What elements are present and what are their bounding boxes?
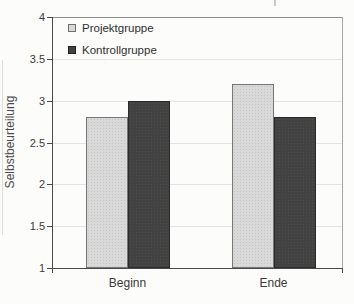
legend-label-projektgruppe: Projektgruppe bbox=[82, 22, 154, 35]
plot-frame-right bbox=[342, 17, 343, 269]
bar-kontrollgruppe-ende bbox=[274, 117, 316, 268]
y-tick-label: 3.5 bbox=[12, 53, 45, 66]
y-tick-label: 3 bbox=[12, 95, 45, 108]
legend-item-kontrollgruppe: Kontrollgruppe bbox=[68, 39, 157, 61]
y-tick-label: 1 bbox=[12, 262, 45, 275]
legend-swatch-kontrollgruppe bbox=[68, 46, 76, 54]
y-tick-label: 2.5 bbox=[12, 137, 45, 150]
y-tick-mark bbox=[47, 59, 52, 60]
gridline bbox=[53, 101, 342, 102]
x-tick-mark bbox=[52, 269, 53, 273]
y-axis-line bbox=[52, 17, 53, 269]
legend-swatch-projektgruppe bbox=[68, 24, 76, 32]
y-tick-label: 1.5 bbox=[12, 220, 45, 233]
x-tick-mark bbox=[342, 269, 343, 273]
y-tick-label: 4 bbox=[12, 11, 45, 24]
bar-kontrollgruppe-beginn bbox=[128, 101, 170, 268]
bar-projektgruppe-ende bbox=[232, 84, 274, 268]
y-tick-mark bbox=[47, 226, 52, 227]
legend-item-projektgruppe: Projektgruppe bbox=[68, 17, 157, 39]
bar-chart-figure: Selbstbeurteilung 11.522.533.54 BeginnEn… bbox=[0, 0, 354, 304]
legend-label-kontrollgruppe: Kontrollgruppe bbox=[82, 44, 157, 57]
y-tick-mark bbox=[47, 184, 52, 185]
bar-projektgruppe-beginn bbox=[86, 117, 128, 268]
scan-artifact bbox=[274, 0, 276, 6]
x-category-label-beginn: Beginn bbox=[83, 276, 173, 290]
x-axis-line bbox=[52, 268, 343, 269]
y-tick-label: 2 bbox=[12, 178, 45, 191]
x-category-label-ende: Ende bbox=[229, 276, 319, 290]
y-tick-mark bbox=[47, 143, 52, 144]
y-tick-mark bbox=[47, 17, 52, 18]
legend: ProjektgruppeKontrollgruppe bbox=[68, 17, 157, 61]
y-tick-mark bbox=[47, 101, 52, 102]
